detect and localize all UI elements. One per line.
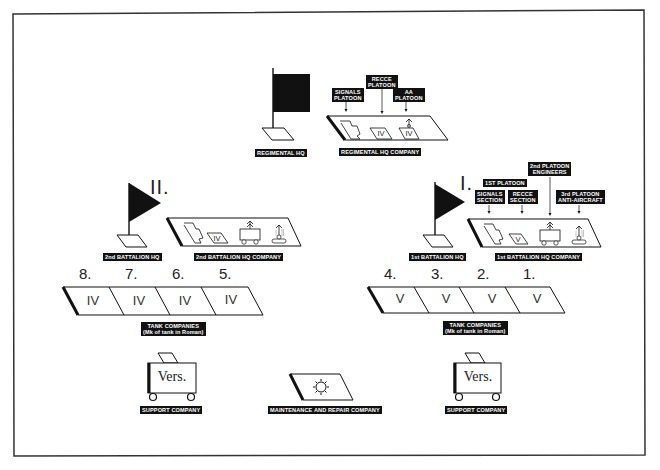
recce-section-label: RECCE SECTION xyxy=(508,190,538,204)
tank-mark: IV xyxy=(78,294,108,308)
org-chart-canvas xyxy=(0,0,660,470)
2nd-battalion-hq-label: 2nd BATTALION HQ xyxy=(103,253,162,261)
aa-tank-mark: IV xyxy=(401,129,417,138)
tank-mark: V xyxy=(522,292,552,306)
2nd-battalion-hq-company-icon xyxy=(167,218,301,246)
regimental-hq-company-label: REGIMENTAL HQ COMPANY xyxy=(339,148,421,156)
2nd-battalion-tank-companies-label: TANK COMPANIES (Mk of tank in Roman) xyxy=(141,322,206,336)
tank-company-number: 3. xyxy=(431,266,444,282)
tank-company-number: 4. xyxy=(384,266,397,282)
1st-platoon-label: 1ST PLATOON xyxy=(483,179,527,187)
maintenance-company-label: MAINTENANCE AND REPAIR COMPANY xyxy=(268,406,382,414)
1st-battalion-hq-pennant-icon xyxy=(423,182,465,247)
tank-company-number: 1. xyxy=(523,266,536,282)
maintenance-company-icon xyxy=(290,374,353,400)
1st-battalion-tank-companies-label: TANK COMPANIES (Mk of tank in Roman) xyxy=(443,321,508,335)
tank-mark: V xyxy=(477,292,507,306)
recce-platoon-label: RECCE PLATOON xyxy=(366,75,398,89)
tank-company-number: 6. xyxy=(172,266,185,282)
2nd-battalion-hq-company-label: 2nd BATTALION HQ COMPANY xyxy=(194,253,283,261)
recce-tank-mark: IV xyxy=(373,129,389,138)
signals-section-label: SIGNALS SECTION xyxy=(475,190,505,204)
1st-battalion-support-company-label: SUPPORT COMPANY xyxy=(445,406,507,414)
regimental-hq-label: REGIMENTAL HQ xyxy=(255,149,307,157)
tank-mark: V xyxy=(385,292,415,306)
2nd-battalion-hq-tank-mark: IV xyxy=(209,234,225,243)
3rd-platoon-anti-aircraft-label: 3rd PLATOON ANTI-AIRCRAFT xyxy=(556,190,605,204)
tank-mark: V xyxy=(431,292,461,306)
support-vehicle-text: Vers. xyxy=(456,369,500,385)
tank-company-number: 7. xyxy=(125,266,138,282)
1st-battalion-hq-tank-mark: V xyxy=(510,235,526,244)
tank-company-number: 5. xyxy=(219,266,232,282)
tank-company-number: 2. xyxy=(477,266,490,282)
1st-battalion-numeral: I. xyxy=(460,173,473,193)
tank-mark: IV xyxy=(124,294,154,308)
tank-company-number: 8. xyxy=(79,266,92,282)
2nd-battalion-support-company-label: SUPPORT COMPANY xyxy=(140,406,202,414)
tank-mark: IV xyxy=(216,293,246,307)
2nd-battalion-numeral: II. xyxy=(150,177,170,197)
signals-platoon-label: SIGNALS PLATOON xyxy=(332,88,364,102)
2nd-platoon-engineers-label: 2nd PLATOON ENGINEERS xyxy=(528,162,571,176)
1st-battalion-hq-company-icon xyxy=(468,177,601,247)
1st-battalion-hq-label: 1st BATTALION HQ xyxy=(409,253,466,261)
support-vehicle-text: Vers. xyxy=(150,369,194,385)
1st-battalion-hq-company-label: 1st BATTALION HQ COMPANY xyxy=(495,253,582,261)
regimental-hq-flag-icon xyxy=(262,68,310,140)
aa-platoon-label: AA PLATOON xyxy=(393,88,425,102)
tank-mark: IV xyxy=(170,294,200,308)
